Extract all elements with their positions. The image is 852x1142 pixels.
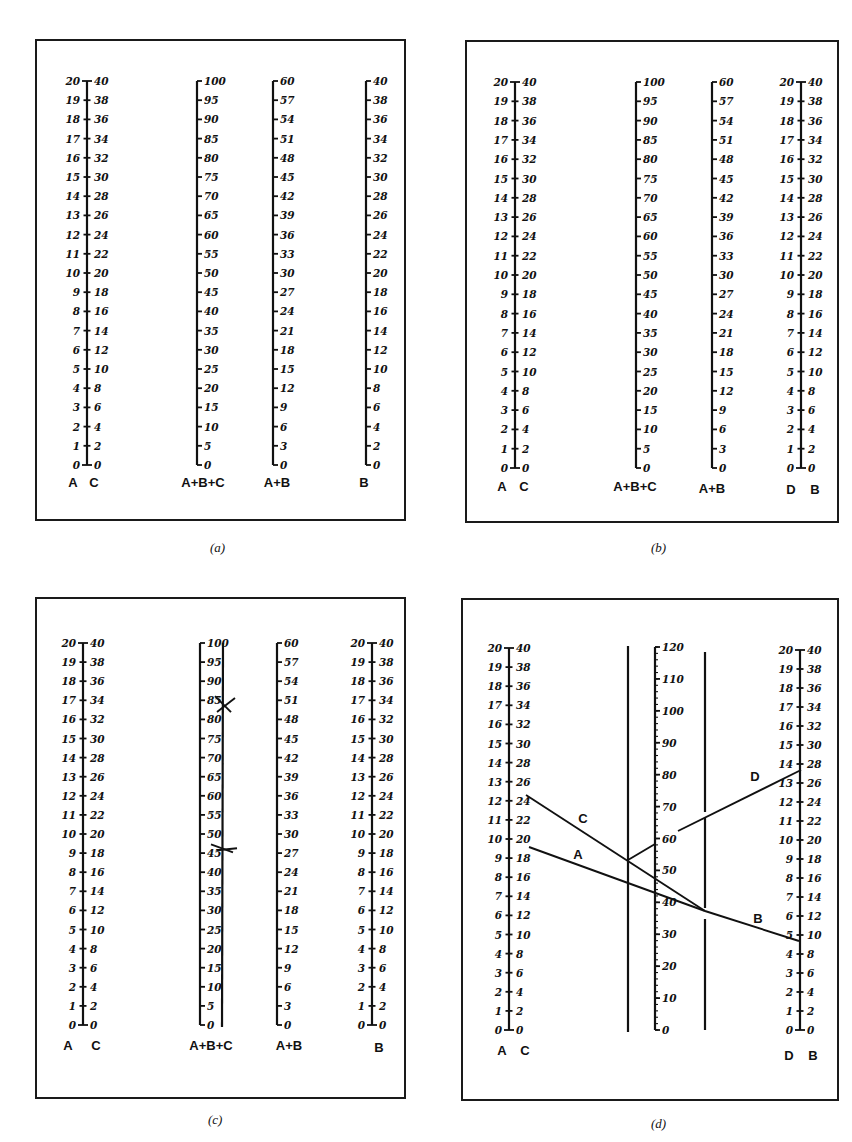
- tick-label: 0: [786, 1024, 794, 1036]
- panel-a: 0123456789101112131415161718192002468101…: [64, 75, 388, 490]
- tick-label: 8: [808, 385, 816, 397]
- tick-label: 50: [204, 267, 219, 279]
- tick-label: 6: [90, 962, 98, 974]
- tick-label: 9: [280, 401, 288, 413]
- tick-label: 22: [807, 250, 823, 262]
- tick-label: 35: [207, 885, 222, 897]
- tick-label: 45: [207, 847, 222, 859]
- tick-label: 4: [358, 943, 365, 955]
- tick-label: 22: [378, 809, 394, 821]
- line-label-b: B: [753, 911, 762, 926]
- panel-d: 0123456789101112131415161718192002468101…: [486, 641, 822, 1063]
- tick-label: 36: [808, 115, 823, 127]
- tick-label: 2: [806, 1005, 814, 1017]
- tick-label: 70: [204, 190, 219, 202]
- tick-label: 10: [207, 981, 222, 993]
- tick-label: 6: [94, 401, 102, 413]
- tick-label: 35: [204, 325, 219, 337]
- tick-label: 95: [204, 94, 219, 106]
- tick-label: 90: [207, 675, 222, 687]
- tick-label: 30: [94, 171, 109, 183]
- tick-label: 13: [65, 209, 80, 221]
- tick-label: 38: [379, 656, 394, 668]
- tick-label: 26: [378, 771, 394, 783]
- tick-label: 15: [207, 962, 222, 974]
- tick-label: 14: [522, 327, 537, 339]
- tick-label: 13: [778, 777, 793, 789]
- tick-label: 25: [206, 924, 222, 936]
- tick-label: 9: [73, 286, 81, 298]
- tick-label: 36: [379, 675, 394, 687]
- tick-label: 30: [719, 269, 734, 281]
- tick-label: 32: [807, 720, 822, 732]
- tick-label: 4: [501, 385, 508, 397]
- tick-label: 30: [90, 733, 105, 745]
- tick-label: 75: [204, 171, 219, 183]
- tick-label: 30: [284, 828, 299, 840]
- tick-label: 13: [350, 771, 365, 783]
- tick-label: 42: [719, 192, 734, 204]
- tick-label: 5: [73, 363, 80, 375]
- tick-label: 6: [501, 346, 509, 358]
- tick-label: 0: [284, 1019, 292, 1031]
- tick-label: 0: [787, 462, 795, 474]
- tick-label: 12: [778, 796, 793, 808]
- tick-label: 22: [521, 250, 537, 262]
- tick-label: 90: [662, 737, 677, 749]
- tick-label: 12: [807, 910, 822, 922]
- tick-label: 50: [207, 828, 222, 840]
- tick-label: 45: [280, 171, 295, 183]
- tick-label: 14: [808, 327, 823, 339]
- tick-label: 20: [203, 382, 219, 394]
- tick-label: 26: [806, 777, 822, 789]
- tick-label: 2: [89, 1000, 97, 1012]
- a-abc-scale: 0510152025303540455055606570758085909510…: [197, 75, 227, 471]
- tick-label: 18: [90, 847, 105, 859]
- tick-label: 17: [487, 699, 502, 711]
- tick-label: 14: [373, 325, 388, 337]
- tick-label: 57: [280, 94, 295, 106]
- tick-label: 6: [280, 421, 288, 433]
- tick-label: 10: [662, 992, 677, 1004]
- tick-label: 18: [808, 288, 823, 300]
- tick-label: 8: [786, 872, 794, 884]
- tick-label: 24: [283, 866, 299, 878]
- tick-label: 24: [372, 229, 388, 241]
- tick-label: 36: [280, 229, 295, 241]
- tick-label: 27: [279, 286, 295, 298]
- tick-label: 7: [787, 327, 795, 339]
- tick-label: 50: [662, 864, 677, 876]
- tick-label: 39: [284, 771, 299, 783]
- tick-label: 38: [90, 656, 105, 668]
- tick-label: 11: [61, 809, 76, 821]
- tick-label: 18: [350, 675, 365, 687]
- tick-label: 12: [61, 790, 76, 802]
- tick-label: 15: [643, 404, 658, 416]
- tick-label: 100: [662, 705, 685, 717]
- tick-label: 100: [204, 75, 227, 87]
- tick-label: 38: [808, 95, 823, 107]
- tick-label: 40: [643, 308, 658, 320]
- tick-label: 3: [69, 962, 76, 974]
- tick-label: 10: [522, 366, 537, 378]
- tick-label: 10: [516, 929, 531, 941]
- tick-label: 10: [487, 833, 502, 845]
- tick-label: 4: [94, 421, 101, 433]
- tick-label: 28: [515, 757, 531, 769]
- tick-label: 20: [378, 828, 394, 840]
- tick-label: 18: [516, 852, 531, 864]
- tick-label: 26: [807, 211, 823, 223]
- tick-label: 6: [379, 962, 387, 974]
- tick-label: 30: [379, 733, 394, 745]
- caption-b: (b): [651, 540, 666, 555]
- tick-label: 60: [662, 833, 677, 845]
- tick-label: 15: [719, 366, 734, 378]
- tick-label: 4: [73, 382, 80, 394]
- tick-label: 30: [280, 267, 295, 279]
- tick-label: 6: [495, 909, 503, 921]
- tick-label: 15: [65, 171, 80, 183]
- tick-label: 24: [807, 230, 823, 242]
- tick-label: 30: [643, 346, 658, 358]
- tick-label: 50: [643, 269, 658, 281]
- tick-label: 14: [487, 757, 502, 769]
